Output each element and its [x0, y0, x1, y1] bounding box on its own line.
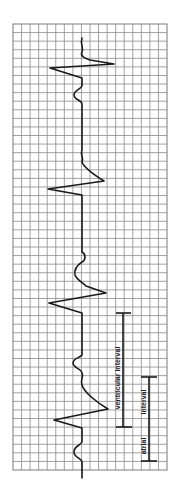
atrial-interval-label-interval: interval [140, 389, 147, 414]
ventricular-interval-label: ventricular interval [114, 347, 121, 410]
atrial-interval-label-atrial: atrial [140, 438, 147, 455]
ecg-trace [48, 38, 114, 478]
atrial-interval-marker: atrial interval [140, 377, 157, 461]
ecg-diagram: ventricular interval atrial interval [0, 0, 174, 496]
